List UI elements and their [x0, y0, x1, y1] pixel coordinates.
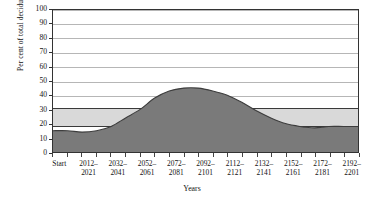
y-tick-label-10: 10: [25, 135, 47, 143]
y-tick-mark-90: [49, 23, 52, 24]
x-label-line2: 2201: [331, 169, 373, 178]
x-tick-label-10: 2192–2201: [331, 160, 373, 177]
y-tick-mark-40: [49, 95, 52, 96]
x-tick-mark-6: [140, 153, 141, 157]
x-tick-mark-1: [67, 153, 68, 157]
area-fill: [53, 88, 358, 152]
x-tick-mark-14: [257, 153, 258, 157]
x-tick-mark-18: [315, 153, 316, 157]
y-tick-label-80: 80: [25, 34, 47, 42]
plot-area: [52, 9, 359, 153]
x-tick-mark-19: [330, 153, 331, 157]
x-tick-mark-5: [125, 153, 126, 157]
y-axis-title: Per cent of total deciduous forest: [16, 0, 25, 96]
x-tick-mark-3: [96, 153, 97, 157]
y-tick-mark-50: [49, 81, 52, 82]
y-tick-label-20: 20: [25, 120, 47, 128]
y-tick-mark-20: [49, 124, 52, 125]
y-tick-mark-100: [49, 9, 52, 10]
x-tick-mark-21: [359, 153, 360, 157]
y-tick-label-70: 70: [25, 48, 47, 56]
x-tick-mark-8: [169, 153, 170, 157]
y-tick-label-50: 50: [25, 77, 47, 85]
x-tick-mark-10: [198, 153, 199, 157]
y-tick-mark-10: [49, 139, 52, 140]
area-series-deciduous-forest: [53, 10, 358, 152]
y-tick-label-40: 40: [25, 91, 47, 99]
x-tick-mark-0: [52, 153, 53, 157]
y-tick-label-0: 0: [25, 149, 47, 157]
x-tick-mark-20: [344, 153, 345, 157]
x-tick-mark-9: [184, 153, 185, 157]
x-tick-mark-11: [213, 153, 214, 157]
chart-figure: Per cent of total deciduous forest 10090…: [0, 0, 384, 210]
x-tick-mark-12: [227, 153, 228, 157]
y-tick-mark-60: [49, 67, 52, 68]
x-tick-mark-7: [154, 153, 155, 157]
x-tick-mark-15: [271, 153, 272, 157]
x-tick-mark-13: [242, 153, 243, 157]
x-axis-title: Years: [0, 184, 384, 193]
y-tick-mark-70: [49, 52, 52, 53]
y-tick-mark-80: [49, 38, 52, 39]
y-tick-label-60: 60: [25, 63, 47, 71]
y-tick-label-30: 30: [25, 106, 47, 114]
y-tick-label-90: 90: [25, 19, 47, 27]
y-tick-mark-30: [49, 110, 52, 111]
x-tick-mark-4: [110, 153, 111, 157]
x-tick-mark-2: [81, 153, 82, 157]
y-tick-label-100: 100: [25, 5, 47, 13]
x-tick-mark-17: [301, 153, 302, 157]
x-tick-mark-16: [286, 153, 287, 157]
